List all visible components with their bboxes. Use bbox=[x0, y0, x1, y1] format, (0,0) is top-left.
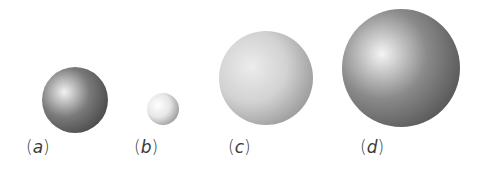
sphere-a bbox=[42, 67, 108, 133]
open-paren: ( bbox=[134, 137, 141, 157]
label-b: (b) bbox=[134, 137, 158, 157]
close-paren: ) bbox=[244, 137, 251, 157]
close-paren: ) bbox=[43, 137, 50, 157]
sphere-c bbox=[219, 31, 313, 125]
open-paren: ( bbox=[26, 137, 33, 157]
open-paren: ( bbox=[360, 137, 367, 157]
label-letter: c bbox=[235, 137, 244, 157]
label-letter: b bbox=[141, 137, 152, 157]
close-paren: ) bbox=[377, 137, 384, 157]
sphere-d bbox=[342, 9, 460, 127]
open-paren: ( bbox=[228, 137, 235, 157]
label-letter: a bbox=[33, 137, 43, 157]
label-d: (d) bbox=[360, 137, 384, 157]
label-c: (c) bbox=[228, 137, 251, 157]
sphere-b bbox=[147, 93, 179, 125]
label-letter: d bbox=[367, 137, 378, 157]
label-a: (a) bbox=[26, 137, 50, 157]
close-paren: ) bbox=[151, 137, 158, 157]
